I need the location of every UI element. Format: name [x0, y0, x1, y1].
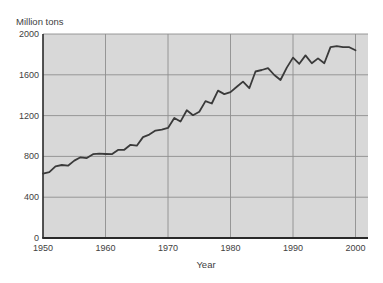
line-chart: 0400800120016002000 19501960197019801990…: [0, 0, 383, 283]
y-tick-label: 0: [34, 233, 39, 243]
x-tick-label: 1960: [95, 243, 115, 253]
x-tick-label: 1980: [220, 243, 240, 253]
x-tick-label: 2000: [345, 243, 365, 253]
x-tick-label: 1990: [283, 243, 303, 253]
y-tick-label: 2000: [19, 29, 39, 39]
y-tick-label: 1200: [19, 111, 39, 121]
plot-area: [43, 34, 368, 238]
y-tick-label: 400: [24, 192, 39, 202]
y-tick-label: 800: [24, 151, 39, 161]
chart-figure: 0400800120016002000 19501960197019801990…: [0, 0, 383, 283]
x-tick-label: 1970: [158, 243, 178, 253]
x-axis-title: Year: [196, 259, 215, 270]
x-axis-tick-labels: 195019601970198019902000: [33, 243, 366, 253]
y-axis-title: Million tons: [16, 16, 64, 27]
y-axis-tick-labels: 0400800120016002000: [19, 29, 39, 243]
y-tick-label: 1600: [19, 70, 39, 80]
x-tick-label: 1950: [33, 243, 53, 253]
